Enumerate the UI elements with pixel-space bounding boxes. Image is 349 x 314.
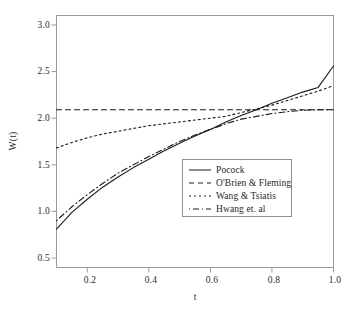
ytick-label: 1.5 <box>24 160 50 170</box>
legend-item-wang-tsiatis[interactable]: Wang & Tsiatis <box>183 189 291 202</box>
ytick-label: 3.0 <box>24 20 50 30</box>
xtick-label: 0.8 <box>259 275 289 285</box>
plot-frame <box>57 16 334 268</box>
series-line <box>57 86 334 148</box>
ytick-label: 2.5 <box>24 66 50 76</box>
ytick-label: 2.0 <box>24 113 50 123</box>
legend-line-dashed-icon <box>188 178 212 188</box>
chart-figure: 3.0 2.5 2.0 1.5 1.0 0.5 0.2 0.4 0.6 0.8 … <box>0 0 349 314</box>
legend-item-pocock[interactable]: Pocock <box>183 163 291 176</box>
y-axis-label: W(t) <box>8 121 18 161</box>
xtick-label: 0.6 <box>197 275 227 285</box>
legend-line-dashdot-icon <box>188 204 212 214</box>
legend-item-obrien-fleming[interactable]: O'Brien & Fleming <box>183 176 291 189</box>
legend-item-hwang[interactable]: Hwang et. al <box>183 202 291 215</box>
legend-line-solid-icon <box>188 165 212 175</box>
ytick-label: 0.5 <box>24 253 50 263</box>
legend-label: Hwang et. al <box>216 204 265 214</box>
xtick-label: 1.0 <box>320 275 349 285</box>
legend-line-dotted-icon <box>188 191 212 201</box>
x-axis-label: t <box>180 292 210 302</box>
legend-label: Pocock <box>216 165 245 175</box>
chart-legend: Pocock O'Brien & Fleming Wang & Tsiatis … <box>182 159 292 217</box>
plot-canvas <box>0 0 349 314</box>
axis-ticks <box>52 25 334 273</box>
legend-label: Wang & Tsiatis <box>216 191 276 201</box>
xtick-label: 0.2 <box>75 275 105 285</box>
xtick-label: 0.4 <box>136 275 166 285</box>
ytick-label: 1.0 <box>24 206 50 216</box>
legend-label: O'Brien & Fleming <box>216 178 291 188</box>
